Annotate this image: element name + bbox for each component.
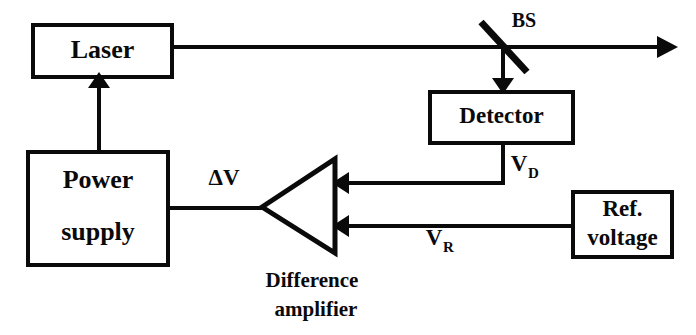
v-detector-signal-subscript: D: [528, 165, 539, 181]
delta-v-signal-label: ΔV: [208, 165, 239, 190]
v-detector-signal-label: V: [511, 151, 528, 176]
beam-splitter-label: BS: [512, 9, 536, 31]
block-diagram-canvas: Laser Power supply Detector Ref. voltage…: [0, 0, 696, 335]
detector-block-label: Detector: [459, 103, 543, 128]
power-supply-block-label-line2: supply: [61, 217, 135, 246]
v-reference-signal-label: V: [426, 225, 443, 250]
difference-amplifier-block[interactable]: [262, 159, 335, 253]
ref-voltage-block-label-line1: Ref.: [602, 196, 642, 221]
v-reference-signal-subscript: R: [443, 239, 454, 255]
difference-amplifier-caption-line2: amplifier: [275, 297, 358, 321]
power-supply-block-label-line1: Power: [63, 165, 134, 194]
difference-amplifier-caption-line1: Difference: [266, 268, 359, 292]
detector-to-amplifier-line: [347, 143, 503, 183]
laser-stabilization-diagram: Laser Power supply Detector Ref. voltage…: [0, 0, 696, 335]
ref-voltage-block-label-line2: voltage: [587, 225, 657, 250]
laser-beam-arrowhead-icon: [657, 36, 678, 58]
laser-block-label: Laser: [71, 35, 135, 64]
